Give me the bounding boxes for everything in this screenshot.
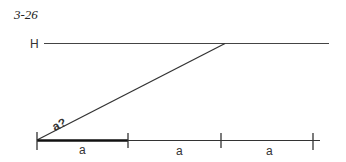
h-label: H [30, 37, 39, 51]
segment-label-2: a [176, 144, 183, 158]
segment-label-1: a [79, 143, 86, 157]
segment-label-3: a [266, 144, 273, 158]
diagram-canvas: H a? a a a [0, 0, 346, 162]
diagonal-label: a? [50, 115, 69, 134]
